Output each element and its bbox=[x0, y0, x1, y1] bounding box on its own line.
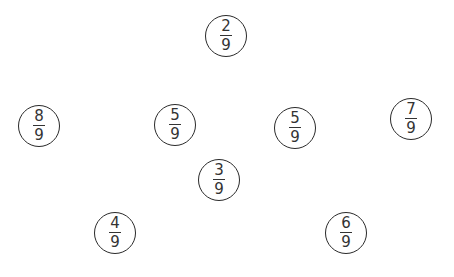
numerator: 8 bbox=[34, 109, 44, 124]
numerator: 3 bbox=[214, 163, 224, 178]
numerator: 5 bbox=[170, 108, 180, 123]
denominator: 9 bbox=[290, 130, 300, 145]
fraction-circle-8-9: 8 9 bbox=[18, 105, 60, 147]
numerator: 2 bbox=[221, 19, 231, 34]
fraction-circle-5-9-left: 5 9 bbox=[154, 104, 196, 146]
fraction-circle-7-9: 7 9 bbox=[390, 98, 432, 140]
denominator: 9 bbox=[221, 38, 231, 53]
denominator: 9 bbox=[34, 128, 44, 143]
numerator: 6 bbox=[341, 216, 351, 231]
fraction-circle-5-9-right: 5 9 bbox=[274, 107, 316, 149]
numerator: 5 bbox=[290, 111, 300, 126]
denominator: 9 bbox=[170, 127, 180, 142]
fraction-circle-4-9: 4 9 bbox=[94, 212, 136, 254]
denominator: 9 bbox=[341, 235, 351, 250]
numerator: 7 bbox=[406, 102, 416, 117]
fraction-diagram: 2 9 8 9 5 9 5 9 7 9 3 9 4 9 6 9 bbox=[0, 0, 454, 277]
fraction-circle-2-9: 2 9 bbox=[205, 15, 247, 57]
denominator: 9 bbox=[214, 182, 224, 197]
fraction-circle-6-9: 6 9 bbox=[325, 212, 367, 254]
numerator: 4 bbox=[110, 216, 120, 231]
fraction-circle-3-9: 3 9 bbox=[198, 159, 240, 201]
denominator: 9 bbox=[406, 121, 416, 136]
denominator: 9 bbox=[110, 235, 120, 250]
